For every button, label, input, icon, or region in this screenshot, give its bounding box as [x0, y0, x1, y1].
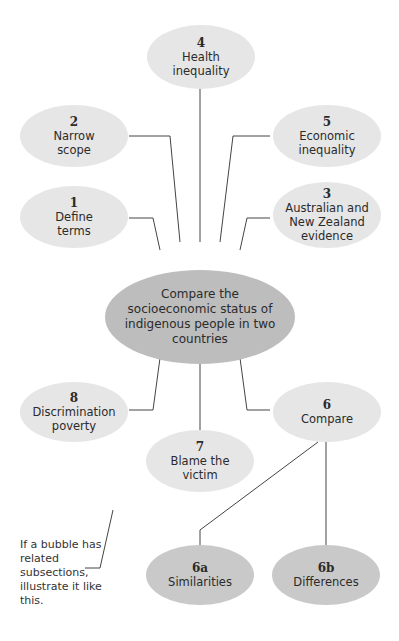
bubble-number: 6a	[192, 561, 208, 575]
bubble-number: 4	[197, 36, 205, 50]
bubble-number: 5	[323, 115, 331, 129]
bubble-6b: 6b Differences	[272, 545, 380, 605]
bubble-6: 6 Compare	[273, 382, 381, 442]
bubble-number: 3	[323, 187, 331, 201]
bubble-number: 8	[70, 391, 78, 405]
bubble-label: Differences	[293, 575, 358, 589]
bubble-label: Blame the victim	[165, 454, 235, 482]
bubble-number: 6	[323, 398, 331, 412]
bubble-label: Narrow scope	[44, 129, 104, 157]
bubble-label: Discrimination poverty	[24, 405, 124, 433]
bubble-4: 4 Health inequality	[147, 25, 255, 89]
bubble-3: 3 Australian and New Zealand evidence	[273, 182, 381, 248]
bubble-number: 6b	[318, 561, 335, 575]
bubble-label: Economic inequality	[287, 129, 367, 157]
bubble-8: 8 Discrimination poverty	[20, 382, 128, 442]
bubble-number: 1	[70, 196, 78, 210]
central-topic-label: Compare the socioeconomic status of indi…	[120, 287, 280, 347]
bubble-number: 7	[196, 440, 204, 454]
central-topic: Compare the socioeconomic status of indi…	[105, 270, 295, 364]
bubble-label: Compare	[301, 412, 353, 426]
subsection-note: If a bubble has related subsections, ill…	[20, 538, 110, 608]
bubble-label: Similarities	[168, 575, 232, 589]
bubble-2: 2 Narrow scope	[20, 105, 128, 167]
bubble-6a: 6a Similarities	[146, 545, 254, 605]
bubble-label: Health inequality	[161, 50, 241, 78]
bubble-label: Define terms	[49, 210, 99, 238]
bubble-number: 2	[70, 115, 78, 129]
bubble-1: 1 Define terms	[20, 186, 128, 248]
bubble-label: Australian and New Zealand evidence	[277, 201, 377, 243]
bubble-5: 5 Economic inequality	[273, 105, 381, 167]
bubble-7: 7 Blame the victim	[146, 430, 254, 492]
